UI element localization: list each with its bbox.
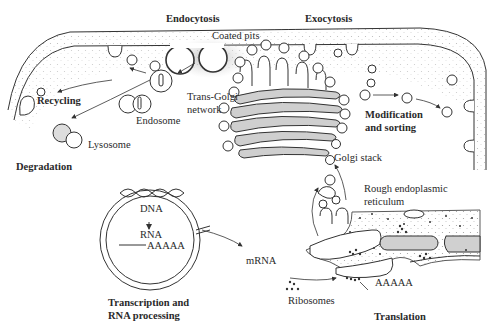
label-degradation: Degradation xyxy=(16,161,72,173)
label-translation: Translation xyxy=(374,311,426,323)
er-golgi-transport xyxy=(312,165,348,236)
diagram-artwork xyxy=(0,0,500,332)
label-trans-golgi-network: network xyxy=(187,104,221,116)
cell-diagram: Endocytosis Exocytosis Coated pits Recyc… xyxy=(0,0,500,332)
label-reticulum: reticulum xyxy=(364,196,404,208)
label-modification: Modification xyxy=(365,109,423,121)
label-ribosomes: Ribosomes xyxy=(288,295,335,307)
label-transcription: Transcription and xyxy=(108,297,189,309)
label-rough-er: Rough endoplasmic xyxy=(364,183,448,195)
label-rna-processing: RNA processing xyxy=(108,310,180,322)
label-lysosome: Lysosome xyxy=(88,139,131,151)
label-dna: DNA xyxy=(140,203,163,215)
label-coated-pits: Coated pits xyxy=(212,30,260,42)
label-mrna: mRNA xyxy=(246,255,276,267)
label-recycling: Recycling xyxy=(37,95,81,107)
label-trans-golgi: Trans-Golgi xyxy=(187,91,238,103)
label-polya-er: AAAAA xyxy=(375,277,413,289)
label-golgi-stack: Golgi stack xyxy=(334,152,382,164)
label-endosome: Endosome xyxy=(136,115,180,127)
free-ribosomes xyxy=(286,281,299,290)
label-endocytosis: Endocytosis xyxy=(166,13,220,25)
label-polya-nucleus: AAAAA xyxy=(147,240,185,252)
label-exocytosis: Exocytosis xyxy=(305,13,352,25)
label-and-sorting: and sorting xyxy=(365,122,416,134)
